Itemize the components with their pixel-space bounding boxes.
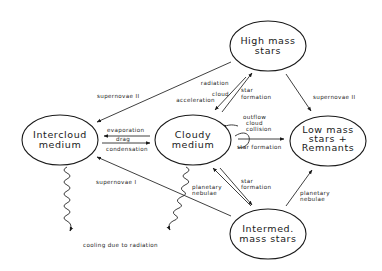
edge-label: supernovae II — [97, 93, 139, 100]
edge-label: formation — [241, 94, 271, 100]
edge-label: supernovae II — [313, 94, 355, 101]
edge-label: nebulae — [300, 196, 325, 202]
edge-label: star — [241, 87, 254, 93]
edge-label: nebulae — [192, 190, 217, 196]
edge-label: collision — [246, 126, 272, 132]
node-label: stars — [255, 45, 281, 56]
node-intermediate-mass-stars: Intermed. mass stars — [230, 209, 306, 259]
edge-label: acceleration — [176, 97, 215, 103]
edge-label: radiation — [201, 80, 229, 86]
node-high-mass-stars: High mass stars — [230, 21, 306, 71]
edge-label: condensation — [106, 146, 148, 152]
node-label: medium — [172, 139, 215, 150]
node-label: Remnants — [302, 142, 355, 153]
cooling-wave-intercloud — [64, 167, 71, 231]
edge-label: star formation — [237, 144, 282, 150]
edge-high-to-intercloud — [97, 62, 231, 122]
edge-label: formation — [241, 184, 271, 190]
edge-high-to-low — [286, 74, 311, 111]
cooling-wave-cloudy — [169, 167, 189, 230]
node-label: mass stars — [239, 233, 296, 244]
node-low-mass-stars-remnants: Low mass stars + Remnants — [290, 116, 366, 166]
cooling-label: cooling due to radiation — [83, 242, 158, 249]
node-label: medium — [39, 139, 82, 150]
star-gas-cycle-diagram: High mass stars Intercloud medium Cloudy… — [0, 0, 382, 271]
edge-label: drag — [116, 136, 130, 143]
node-cloudy-medium: Cloudy medium — [155, 115, 231, 165]
edge-label: evaporation — [107, 127, 145, 134]
edge-label: supernovae I — [96, 179, 136, 186]
node-intercloud-medium: Intercloud medium — [22, 115, 98, 165]
